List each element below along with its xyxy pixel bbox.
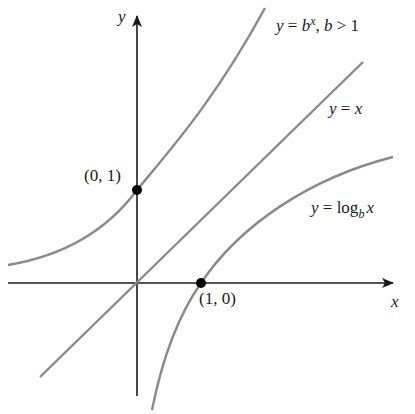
identity-label: y = x [327, 99, 363, 118]
point-0-1-label: (0, 1) [84, 166, 121, 185]
y-axis-label: y [116, 7, 126, 26]
x-axis-label: x [390, 292, 399, 311]
point-1-0 [196, 278, 206, 288]
exponential-label: y = bx, b > 1 [274, 14, 359, 35]
logarithmic-label: y = logbx [309, 198, 374, 221]
point-0-1 [132, 185, 142, 195]
point-1-0-label: (1, 0) [199, 289, 236, 308]
function-graph: y x (0, 1) (1, 0) y = bx, b > 1 y = x y … [0, 0, 415, 414]
